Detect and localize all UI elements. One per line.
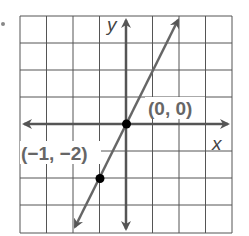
label-y-axis: y xyxy=(105,14,118,35)
point-neg1-neg2 xyxy=(96,174,105,183)
coordinate-plane: (0, 0) (−1, −2) x y xyxy=(0,0,249,236)
bullet-dot xyxy=(1,22,5,26)
label-point: (−1, −2) xyxy=(21,143,88,164)
point-origin xyxy=(122,120,131,129)
label-origin: (0, 0) xyxy=(148,98,192,119)
label-x-axis: x xyxy=(211,133,223,154)
